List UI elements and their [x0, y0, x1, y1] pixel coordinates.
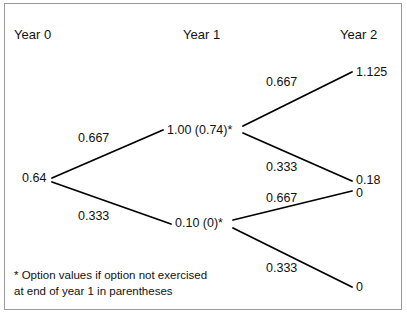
edge-label-down-du: 0.667	[266, 192, 297, 205]
node-year2-ud: 0.18	[356, 174, 380, 187]
node-year1-up: 1.00 (0.74)*	[167, 124, 232, 137]
column-header-year-1: Year 1	[183, 28, 220, 41]
edge-label-up-uu: 0.667	[266, 76, 297, 89]
figure-footnote: * Option values if option not exercised …	[14, 268, 207, 299]
figure-canvas: Year 0 Year 1 Year 2 0.64 1.00 (0.74)* 0…	[0, 0, 407, 326]
column-header-year-0: Year 0	[14, 28, 51, 41]
edge-label-down-dd: 0.333	[266, 262, 297, 275]
edge-label-root-up: 0.667	[78, 132, 109, 145]
node-root: 0.64	[22, 172, 46, 185]
tree-edge-down-dd	[233, 228, 352, 287]
node-year2-du: 0	[356, 187, 363, 200]
edge-label-root-down: 0.333	[78, 210, 109, 223]
tree-edge-up-ud	[243, 133, 352, 181]
edge-label-up-ud: 0.333	[266, 161, 297, 174]
node-year2-uu: 1.125	[356, 66, 387, 79]
column-header-year-2: Year 2	[340, 28, 377, 41]
node-year2-dd: 0	[356, 281, 363, 294]
node-year1-down: 0.10 (0)*	[175, 217, 223, 230]
tree-edge-up-uu	[243, 72, 352, 126]
tree-edge-root-down	[52, 182, 171, 224]
